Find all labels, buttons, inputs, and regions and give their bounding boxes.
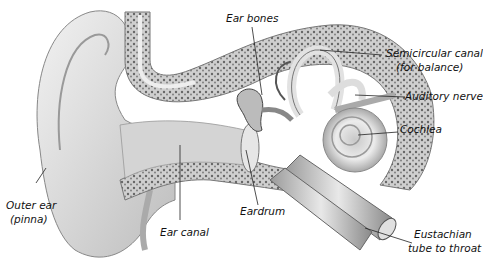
label-ear-canal: Ear canal: [160, 226, 209, 239]
label-tube-to-throat: tube to throat: [408, 242, 481, 255]
label-pinna: (pinna): [10, 213, 48, 226]
label-semicircular-canal: Semicircular canal: [386, 47, 483, 60]
label-outer-ear: Outer ear: [6, 199, 56, 212]
label-auditory-nerve: Auditory nerve: [405, 90, 483, 103]
label-eustachian: Eustachian: [414, 228, 472, 241]
label-for-balance: (for balance): [396, 61, 463, 74]
label-ear-bones: Ear bones: [226, 12, 278, 25]
label-cochlea: Cochlea: [400, 123, 442, 136]
label-eardrum: Eardrum: [240, 205, 285, 218]
ossicles-shape: [237, 89, 263, 131]
